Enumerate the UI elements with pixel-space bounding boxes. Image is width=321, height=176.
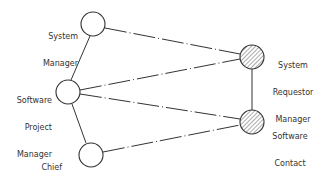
label-line: System (36, 32, 78, 41)
label-line: Contact (268, 159, 312, 168)
edge-software-project-manager-to-chief-programmer (72, 104, 86, 143)
label-chief-programmer: Chief Programmer (20, 145, 76, 176)
edge-software-project-manager-to-software-contact (80, 94, 240, 119)
node-chief-programmer (79, 143, 103, 167)
label-system-manager: System Manager (36, 14, 78, 77)
label-software-contact: Software Contact (268, 114, 312, 176)
edge-software-project-manager-to-system-requestor-manager (80, 59, 240, 90)
label-line: Project (6, 123, 52, 132)
label-line: System (268, 61, 318, 70)
node-system-requestor-manager (240, 45, 264, 69)
label-line: Software (6, 96, 52, 105)
label-line: Chief (20, 163, 76, 172)
node-system-manager (81, 12, 105, 36)
label-line: Manager (36, 59, 78, 68)
node-software-contact (240, 110, 264, 134)
label-line: Software (268, 132, 312, 141)
edge-chief-programmer-to-software-contact (103, 125, 240, 152)
node-software-project-manager (56, 80, 80, 104)
label-line: Requestor (268, 88, 318, 97)
edge-system-manager-to-system-requestor-manager (105, 28, 240, 54)
